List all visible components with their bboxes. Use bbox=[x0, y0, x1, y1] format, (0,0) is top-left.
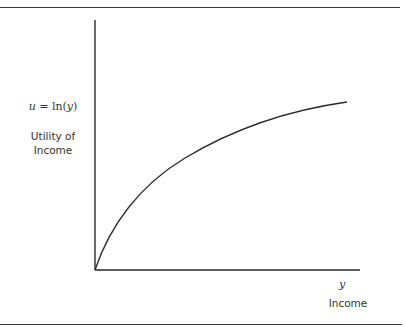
y-axis-label-line1: Utility of bbox=[18, 129, 88, 143]
bottom-rule bbox=[0, 324, 402, 325]
y-axis-label-line2: Income bbox=[18, 143, 88, 157]
y-axis-label: Utility of Income bbox=[18, 129, 88, 157]
eq-ln: ln bbox=[52, 100, 63, 113]
utility-curve bbox=[95, 102, 347, 270]
eq-equals: = bbox=[36, 100, 52, 113]
x-axis-label: Income bbox=[320, 296, 376, 310]
utility-equation: u = ln(y) bbox=[18, 100, 88, 114]
eq-u: u bbox=[29, 100, 36, 113]
eq-close-paren: ) bbox=[73, 100, 77, 113]
x-axis-variable: y bbox=[332, 278, 352, 292]
